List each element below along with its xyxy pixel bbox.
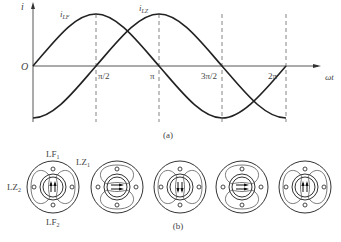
curve-label-i-lf: iLF bbox=[60, 9, 70, 20]
rotor-state-1 bbox=[27, 161, 79, 213]
y-axis-label: i bbox=[21, 1, 24, 12]
label-lf2: LF2 bbox=[46, 217, 60, 228]
x-axis-arrow-icon bbox=[313, 64, 321, 68]
arrow-right-icon bbox=[236, 183, 249, 190]
rotor-state-3 bbox=[154, 161, 206, 213]
rotor-state-4 bbox=[216, 161, 268, 213]
arrow-up-icon bbox=[301, 181, 308, 192]
arrow-down-icon bbox=[176, 182, 183, 193]
stator-icon bbox=[279, 161, 331, 213]
curve-label-i-lz: iLZ bbox=[139, 3, 149, 14]
stator-icon bbox=[154, 161, 206, 213]
phase-guides bbox=[96, 14, 286, 122]
rotor-state-5 bbox=[279, 161, 331, 213]
rotor-state-2 bbox=[91, 161, 143, 213]
origin-label: O bbox=[21, 61, 28, 72]
tick-pi-half: π/2 bbox=[98, 71, 110, 81]
tick-3pi-half: 3π/2 bbox=[201, 71, 217, 81]
label-lz2: LZ2 bbox=[7, 182, 21, 193]
y-axis-arrow-icon bbox=[31, 2, 35, 9]
field-lines-icon bbox=[225, 165, 258, 209]
subscript: LZ bbox=[141, 8, 149, 14]
caption-b: (b) bbox=[173, 221, 184, 231]
field-lines-icon bbox=[283, 170, 327, 203]
caption-a: (a) bbox=[163, 130, 173, 140]
tick-2pi: 2π bbox=[268, 71, 278, 81]
figure-canvas: i ωt O iLF iLZ π/2 π 3π/2 2π (a) bbox=[0, 0, 341, 242]
label-lz1: LZ1 bbox=[76, 157, 90, 168]
waveform-plot: i ωt O iLF iLZ π/2 π 3π/2 2π (a) bbox=[21, 1, 334, 140]
arrow-up-icon bbox=[49, 181, 56, 192]
subscript: LF bbox=[62, 14, 70, 20]
stator-icon bbox=[216, 161, 268, 213]
field-lines-icon bbox=[158, 170, 202, 203]
arrow-right-icon bbox=[111, 183, 124, 190]
x-axis-label: ωt bbox=[325, 72, 334, 82]
stator-icon bbox=[91, 161, 143, 213]
field-lines-icon bbox=[100, 165, 133, 209]
stator-icon bbox=[27, 161, 79, 213]
tick-pi: π bbox=[150, 71, 155, 81]
label-lf1: LF1 bbox=[46, 149, 60, 160]
field-lines-icon bbox=[31, 170, 75, 203]
